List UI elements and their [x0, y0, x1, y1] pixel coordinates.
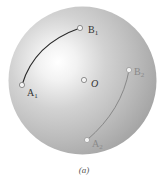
figure-caption: (a) [0, 165, 168, 175]
point-label-o: O [91, 78, 98, 89]
point-marker-icon [19, 82, 24, 87]
point-marker-icon [84, 137, 89, 142]
point-marker-icon [126, 67, 131, 72]
point-marker-icon [77, 25, 82, 30]
point-marker-icon [81, 77, 86, 82]
sphere-diagram: A1B1OB2A2 [0, 0, 168, 179]
